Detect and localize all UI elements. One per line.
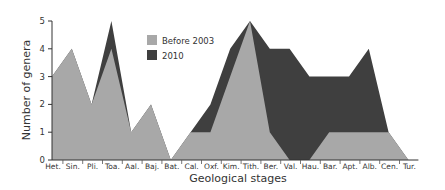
x-category-label: Bat. [164, 162, 179, 171]
x-category-label: Kim. [223, 162, 240, 171]
x-axis-title: Geological stages [189, 172, 287, 185]
x-category-label: Cal. [184, 162, 198, 171]
y-tick-label: 4 [40, 44, 45, 54]
y-tick-labels: 012345 [40, 16, 45, 165]
x-category-label: Toa. [104, 162, 120, 171]
x-category-label: Oxf. [204, 162, 219, 171]
x-category-label: Het. [45, 162, 61, 171]
x-category-label: Hau. [302, 162, 319, 171]
legend: Before 2003 2010 [147, 35, 214, 61]
x-category-label: Ber. [264, 162, 279, 171]
x-category-label: Pli. [87, 162, 98, 171]
x-category-label: Baj. [145, 162, 159, 171]
legend-label-2010: 2010 [162, 51, 184, 61]
y-tick-label: 0 [40, 155, 45, 165]
x-category-label: Apt. [342, 162, 357, 171]
x-category-label: Tur. [402, 162, 416, 171]
y-tick-label: 1 [40, 127, 45, 137]
x-category-label: Cen. [381, 162, 398, 171]
x-category-label: Tith. [242, 162, 260, 171]
area-chart: 012345 Het.Sin.Pli.Toa.Aal.Baj.Bat.Cal.O… [0, 0, 445, 190]
y-tick-label: 5 [40, 16, 45, 26]
legend-swatch-before-2003 [147, 35, 157, 45]
legend-label-before-2003: Before 2003 [162, 36, 214, 46]
y-tick-label: 2 [40, 99, 45, 109]
x-category-label: Sin. [66, 162, 80, 171]
plot-areas [52, 21, 408, 160]
x-category-label: Aal. [125, 162, 139, 171]
x-category-label: Val. [284, 162, 298, 171]
x-category-label: Bar. [323, 162, 338, 171]
x-category-label: Alb. [363, 162, 377, 171]
y-tick-label: 3 [40, 72, 45, 82]
y-axis-title: Number of genera [20, 40, 33, 141]
legend-swatch-2010 [147, 50, 157, 60]
